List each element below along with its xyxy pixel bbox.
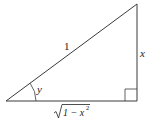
base-radicand: 1 − x xyxy=(63,107,85,118)
right-angle-marker xyxy=(125,89,137,101)
vertical-side-label: x xyxy=(139,47,145,59)
angle-arc xyxy=(30,83,36,101)
base-label: 1 − x 2 xyxy=(54,104,90,118)
base-exponent: 2 xyxy=(86,104,89,111)
angle-label: y xyxy=(36,83,42,95)
hypotenuse-line xyxy=(6,4,137,101)
triangle-diagram: 1 x y 1 − x 2 xyxy=(0,0,158,124)
triangle-svg: 1 x y 1 − x 2 xyxy=(0,0,158,124)
hypotenuse-label: 1 xyxy=(64,40,70,52)
